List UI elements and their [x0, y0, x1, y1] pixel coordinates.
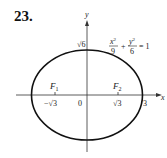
- pos-sqrt3-label: √3: [113, 99, 121, 108]
- ellipse-equation: x2 9 + y2 6 = 1: [109, 37, 150, 56]
- eq-x-denominator: 9: [111, 47, 115, 56]
- focus2-label: F2: [112, 81, 122, 92]
- x-axis-label: x: [160, 93, 165, 102]
- focus1-label: F1: [49, 81, 59, 92]
- y-intercept-label: √6: [77, 40, 85, 49]
- neg-sqrt3-label: −√3: [44, 99, 57, 108]
- eq-x-numerator: x2: [109, 37, 117, 46]
- eq-plus: +: [121, 42, 126, 51]
- eq-y-denominator: 6: [130, 47, 134, 56]
- origin-label: 0: [78, 99, 82, 108]
- y-axis-arrow-icon: [85, 20, 89, 26]
- x-intercept-label: 3: [143, 99, 147, 108]
- ellipse-diagram: x y √6 0 3 −√3 √3 F1 F2 x2 9 + y2 6 = 1: [0, 0, 167, 158]
- y-axis-label: y: [84, 10, 89, 19]
- eq-rhs: = 1: [139, 42, 150, 51]
- eq-y-numerator: y2: [128, 37, 136, 46]
